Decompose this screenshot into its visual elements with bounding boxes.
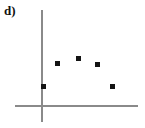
data-point [55,61,60,66]
data-point [41,84,46,89]
scatter-plot-figure: d) Scatter plot of five points forming a… [0,0,145,128]
x-axis-line [15,105,138,107]
data-point [95,62,100,67]
plot-area [0,0,145,128]
data-point [110,84,115,89]
data-point [76,56,81,61]
